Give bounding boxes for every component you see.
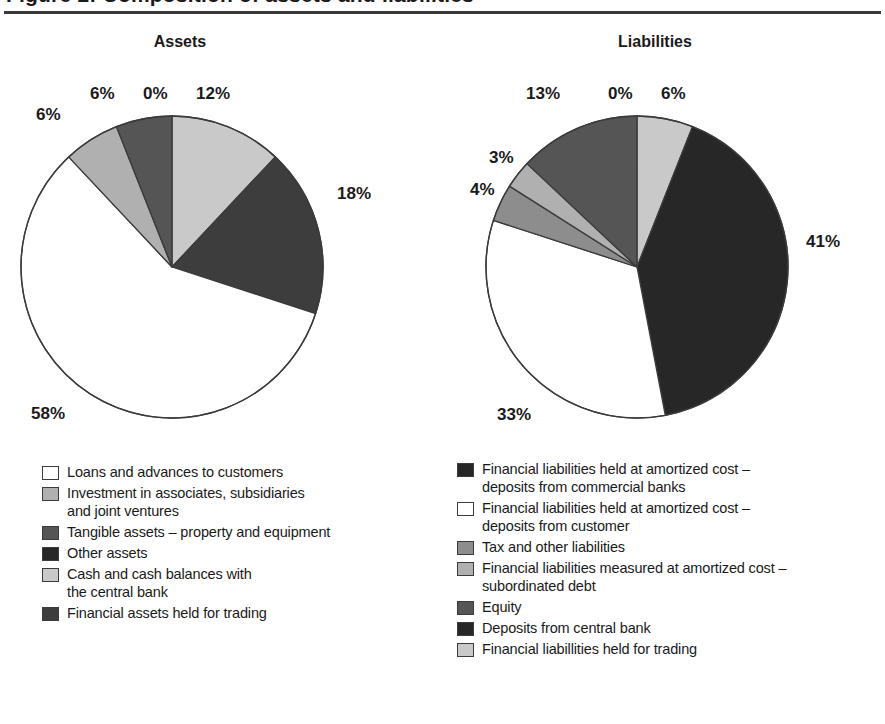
legend-assets-label-1-line2: and joint ventures: [67, 502, 305, 520]
assets-pct-other: 0%: [143, 84, 168, 104]
pie-chart-assets: [22, 110, 322, 425]
legend-liabilities-item-5[interactable]: Deposits from central bank: [457, 619, 867, 637]
liabilities-pct-comm-banks: 41%: [806, 232, 840, 252]
legend-liabilities-swatch-1: [457, 502, 474, 516]
legend-liabilities: Financial liabilities held at amortized …: [457, 460, 867, 661]
legend-assets-swatch-1: [42, 487, 59, 501]
legend-liabilities-swatch-6: [457, 643, 474, 657]
legend-liabilities-swatch-4: [457, 601, 474, 615]
liabilities-pct-customer: 33%: [497, 405, 531, 425]
liabilities-slice-group: [486, 116, 788, 418]
legend-assets-label-4: Cash and cash balances withthe central b…: [67, 565, 252, 601]
legend-assets-swatch-2: [42, 526, 59, 540]
pie-chart-liabilities: [487, 110, 787, 425]
legend-liabilities-label-1-line2: deposits from customer: [482, 517, 750, 535]
legend-liabilities-label-1: Financial liabilities held at amortized …: [482, 499, 750, 535]
assets-pct-investment: 6%: [36, 105, 61, 125]
liabilities-pct-central-bank: 0%: [608, 84, 633, 104]
legend-liabilities-label-0-line2: deposits from commercial banks: [482, 478, 750, 496]
assets-pct-loans: 58%: [31, 404, 65, 424]
figure-title-text: Figure 2: Composition of assets and liab…: [6, 0, 474, 7]
legend-assets-item-4[interactable]: Cash and cash balances withthe central b…: [42, 565, 412, 601]
legend-assets-item-5[interactable]: Financial assets held for trading: [42, 604, 412, 622]
legend-assets-label-4-line2: the central bank: [67, 583, 252, 601]
liabilities-pct-trading: 6%: [661, 84, 686, 104]
liabilities-pct-tax: 4%: [470, 180, 495, 200]
figure-page: Figure 2: Composition of assets and liab…: [0, 0, 885, 724]
legend-liabilities-item-0[interactable]: Financial liabilities held at amortized …: [457, 460, 867, 496]
legend-assets-label-2: Tangible assets – property and equipment: [67, 523, 330, 541]
legend-liabilities-item-4[interactable]: Equity: [457, 598, 867, 616]
legend-assets-swatch-3: [42, 547, 59, 561]
legend-assets-item-0[interactable]: Loans and advances to customers: [42, 463, 412, 481]
legend-liabilities-item-1[interactable]: Financial liabilities held at amortized …: [457, 499, 867, 535]
legend-liabilities-swatch-5: [457, 622, 474, 636]
liabilities-pct-equity: 13%: [526, 84, 560, 104]
legend-assets-label-5: Financial assets held for trading: [67, 604, 267, 622]
figure-title-cropped: Figure 2: Composition of assets and liab…: [0, 0, 885, 11]
legend-liabilities-label-0: Financial liabilities held at amortized …: [482, 460, 750, 496]
legend-assets-swatch-5: [42, 607, 59, 621]
legend-liabilities-swatch-2: [457, 541, 474, 555]
legend-assets-item-1[interactable]: Investment in associates, subsidiariesan…: [42, 484, 412, 520]
header-rule: [4, 11, 881, 14]
legend-assets-item-2[interactable]: Tangible assets – property and equipment: [42, 523, 412, 541]
legend-liabilities-label-2: Tax and other liabilities: [482, 538, 625, 556]
assets-pct-trading: 18%: [337, 184, 371, 204]
legend-assets-label-3: Other assets: [67, 544, 147, 562]
legend-liabilities-label-3: Financial liabilities measured at amorti…: [482, 559, 786, 595]
legend-liabilities-label-3-line2: subordinated debt: [482, 577, 786, 595]
legend-liabilities-item-6[interactable]: Financial liabillities held for trading: [457, 640, 867, 658]
legend-assets: Loans and advances to customersInvestmen…: [42, 463, 412, 625]
legend-assets-item-3[interactable]: Other assets: [42, 544, 412, 562]
assets-pct-tangible: 6%: [90, 84, 115, 104]
legend-liabilities-label-4: Equity: [482, 598, 521, 616]
legend-assets-swatch-0: [42, 466, 59, 480]
legend-liabilities-swatch-3: [457, 562, 474, 576]
assets-slice-group: [21, 116, 323, 418]
legend-liabilities-item-3[interactable]: Financial liabilities measured at amorti…: [457, 559, 867, 595]
legend-liabilities-item-2[interactable]: Tax and other liabilities: [457, 538, 867, 556]
legend-assets-swatch-4: [42, 568, 59, 582]
legend-liabilities-swatch-0: [457, 463, 474, 477]
legend-liabilities-label-6: Financial liabillities held for trading: [482, 640, 697, 658]
liabilities-pct-subordinated: 3%: [489, 148, 514, 168]
panel-heading-liabilities: Liabilities: [555, 33, 755, 51]
pie-chart-liabilities-svg: [487, 110, 787, 425]
legend-assets-label-1: Investment in associates, subsidiariesan…: [67, 484, 305, 520]
assets-pct-cash: 12%: [196, 84, 230, 104]
panel-heading-assets: Assets: [80, 33, 280, 51]
legend-assets-label-0: Loans and advances to customers: [67, 463, 283, 481]
legend-liabilities-label-5: Deposits from central bank: [482, 619, 651, 637]
pie-chart-assets-svg: [22, 110, 322, 425]
